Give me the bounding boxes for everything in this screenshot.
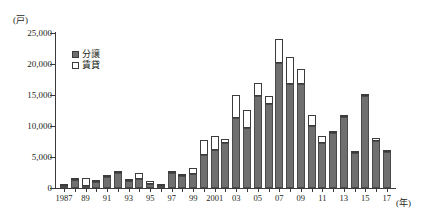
bar-segment-chintai	[265, 96, 273, 105]
x-tick-mark	[312, 188, 313, 192]
bar-group	[211, 33, 219, 188]
bar-segment-bunjo	[318, 143, 326, 188]
x-tick-mark	[279, 188, 280, 192]
bar-segment-chintai	[157, 184, 165, 186]
x-tick-mark	[365, 188, 366, 192]
bar-segment-bunjo	[243, 128, 251, 188]
y-tick-mark	[50, 126, 55, 127]
x-tick-mark	[269, 188, 270, 192]
y-axis-tick-labels: 05,00010,00015,00020,00025,000	[0, 0, 52, 214]
bar-segment-bunjo	[351, 153, 359, 188]
y-tick-label: 25,000	[2, 28, 52, 38]
bar-segment-bunjo	[211, 150, 219, 188]
y-tick-label: 10,000	[2, 121, 52, 131]
y-tick-label: 15,000	[2, 90, 52, 100]
x-axis-unit-label: (年)	[396, 196, 411, 209]
bar-group	[286, 33, 294, 188]
bar-group	[243, 33, 251, 188]
bar-segment-bunjo	[265, 104, 273, 188]
bar-segment-chintai	[308, 115, 316, 126]
x-tick-mark	[182, 188, 183, 192]
x-tick-mark	[129, 188, 130, 192]
bar-segment-bunjo	[275, 63, 283, 188]
x-tick-label: 17	[383, 193, 392, 203]
x-tick-label: 09	[297, 193, 306, 203]
x-tick-label: 2001	[206, 193, 223, 203]
bar-segment-chintai	[340, 115, 348, 117]
bar-segment-chintai	[329, 131, 337, 133]
x-tick-mark	[376, 188, 377, 192]
bar-segment-chintai	[351, 151, 359, 153]
bar-segment-chintai	[82, 178, 90, 186]
bar-segment-chintai	[200, 140, 208, 155]
x-tick-label: 93	[124, 193, 133, 203]
bar-segment-chintai	[114, 171, 122, 173]
x-tick-mark	[64, 188, 65, 192]
bar-segment-chintai	[297, 69, 305, 85]
x-tick-mark	[107, 188, 108, 192]
bar-group	[340, 33, 348, 188]
bar-segment-chintai	[178, 174, 186, 176]
bar-group	[318, 33, 326, 188]
bar-segment-bunjo	[383, 152, 391, 188]
bar-segment-bunjo	[297, 84, 305, 188]
bar-segment-chintai	[383, 150, 391, 152]
bar-segment-chintai	[254, 83, 262, 95]
plot-area	[56, 33, 396, 188]
x-tick-mark	[322, 188, 323, 192]
x-tick-mark	[204, 188, 205, 192]
bar-segment-chintai	[135, 173, 143, 179]
bar-segment-bunjo	[189, 174, 197, 188]
bar-segment-bunjo	[329, 133, 337, 188]
x-tick-label: 15	[361, 193, 370, 203]
bar-group	[135, 33, 143, 188]
x-tick-mark	[161, 188, 162, 192]
bar-segment-chintai	[60, 184, 68, 186]
y-tick-mark	[50, 188, 55, 189]
bar-group	[254, 33, 262, 188]
x-tick-label: 99	[189, 193, 198, 203]
bar-segment-chintai	[211, 136, 219, 150]
x-tick-mark	[236, 188, 237, 192]
bar-segment-chintai	[372, 138, 380, 140]
bar-group	[189, 33, 197, 188]
bar-group	[308, 33, 316, 188]
bar-segment-chintai	[71, 178, 79, 180]
bar-segment-bunjo	[125, 181, 133, 188]
bar-segment-bunjo	[103, 177, 111, 188]
bar-segment-chintai	[286, 57, 294, 84]
bar-segment-chintai	[275, 39, 283, 63]
bar-segment-bunjo	[178, 176, 186, 188]
bar-segment-bunjo	[308, 126, 316, 188]
bar-group	[157, 33, 165, 188]
bar-group	[103, 33, 111, 188]
x-tick-mark	[96, 188, 97, 192]
legend-item-bunjo: 分譲	[72, 49, 100, 60]
legend-label-bunjo: 分譲	[82, 49, 100, 60]
x-tick-label: 05	[253, 193, 262, 203]
bar-group	[114, 33, 122, 188]
bar-segment-chintai	[189, 168, 197, 174]
bar-segment-bunjo	[286, 84, 294, 188]
bar-group	[146, 33, 154, 188]
legend-swatch-bunjo	[72, 51, 79, 58]
bar-group	[329, 33, 337, 188]
bar-segment-bunjo	[372, 141, 380, 188]
bar-segment-bunjo	[71, 180, 79, 188]
x-tick-mark	[86, 188, 87, 192]
x-tick-mark	[225, 188, 226, 192]
chart-legend: 分譲 賃貸	[72, 49, 100, 71]
bar-group	[275, 33, 283, 188]
x-tick-mark	[247, 188, 248, 192]
bar-group	[168, 33, 176, 188]
housing-units-bar-chart: (戸) 05,00010,00015,00020,00025,000 (年) 分…	[0, 0, 422, 214]
x-tick-mark	[75, 188, 76, 192]
x-tick-mark	[355, 188, 356, 192]
bar-segment-chintai	[232, 95, 240, 118]
bar-group	[351, 33, 359, 188]
x-tick-mark	[258, 188, 259, 192]
x-tick-label: 07	[275, 193, 284, 203]
bar-group	[125, 33, 133, 188]
x-tick-label: 89	[81, 193, 90, 203]
bar-group	[200, 33, 208, 188]
